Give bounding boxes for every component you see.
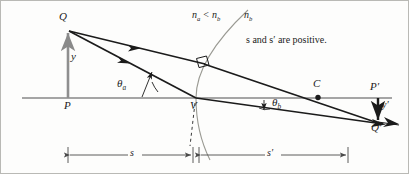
lower-incident-ray [69,31,196,98]
label-image-point-Q-prime: Q′ [371,122,381,133]
label-index-comparison: na<nb [192,10,220,23]
figure-root: Q y P V C P′ Q′ y′ θa θb s s′ na<nb nb s… [0,0,409,174]
theta-a-subscript: a [122,84,126,92]
lower-incident-ray-arrowhead [117,57,130,64]
label-vertex-V: V [190,100,197,111]
medium-b-subscript: b [249,15,252,22]
theta-b-subscript: b [277,103,281,111]
label-angle-theta-a: θa [117,78,126,92]
label-center-of-curvature-C: C [313,78,320,89]
nb-subscript: b [217,15,220,22]
ray-diagram-canvas [0,0,409,174]
label-medium-b: nb [244,10,252,23]
label-object-distance-s: s [130,148,134,158]
label-axis-point-P: P [64,100,71,111]
label-angle-theta-b: θb [272,97,281,111]
upper-incident-ray-arrowhead [128,45,141,51]
upper-refracted-ray [204,64,381,124]
label-image-distance-s-prime: s′ [267,148,273,158]
label-object-point-Q: Q [59,11,67,22]
center-of-curvature-dot [315,95,320,100]
label-sign-note: s and s′ are positive. [246,35,327,45]
label-image-axis-point-P-prime: P′ [370,81,379,92]
theta-a-leader [142,72,152,97]
label-image-height-y-prime: y′ [382,100,389,110]
label-object-height-y: y [71,51,76,62]
index-comparison-operator: < [200,9,212,20]
ray-exit-arrowhead-1 [383,117,399,127]
theta-a-arc [152,82,158,92]
lower-refracted-ray [196,98,383,124]
refracting-surface [196,10,248,160]
